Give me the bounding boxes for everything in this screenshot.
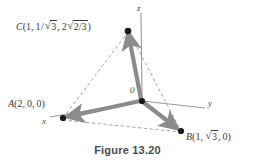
origin-label: 0 — [130, 86, 135, 95]
point-label-B: B(1, √3, 0) — [186, 130, 231, 142]
vector-OB — [143, 102, 174, 126]
vertex-dot-B — [178, 128, 184, 134]
y-axis-label: y — [208, 99, 212, 108]
position-vectors — [71, 37, 174, 126]
figure-caption: Figure 13.20 — [0, 144, 255, 156]
vertex-dot-C — [125, 28, 132, 35]
point-label-C-name: C — [16, 21, 23, 32]
dashed-edge-AB — [63, 120, 181, 132]
z-axis-label: z — [137, 4, 141, 13]
vertex-dot-origin — [139, 98, 145, 104]
point-label-A: A(2, 0, 0) — [8, 99, 45, 109]
x-axis-label: x — [42, 117, 46, 126]
vertex-dot-A — [60, 115, 66, 121]
z-axis-line — [141, 13, 142, 101]
point-label-C: C(1, 1/√3, 2√2/3) — [16, 20, 91, 32]
vector-OA — [71, 101, 140, 116]
figure-container: C(1, 1/√3, 2√2/3) A(2, 0, 0) B(1, √3, 0)… — [0, 0, 255, 166]
